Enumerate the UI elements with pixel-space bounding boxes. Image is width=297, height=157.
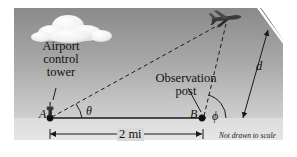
point-b-label: B [190,108,197,121]
observation-post-label: Observation post [150,72,222,98]
point-b-marker [199,115,206,122]
point-a-label: A [39,108,46,121]
angle-phi-label: ϕ [212,110,218,123]
not-to-scale-note: Not drawn to scale [219,132,276,140]
airport-control-tower-label: Airport control tower [31,40,91,79]
baseline-measure-label: 2 mi [117,128,144,141]
figure-container: Airport control tower Observation post A… [0,0,297,157]
distance-d-label: d [256,60,262,73]
angle-theta-label: θ [86,105,92,118]
